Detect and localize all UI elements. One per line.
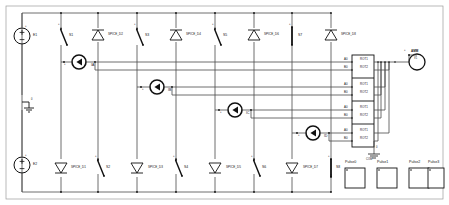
block-common-node-label: COM [366,159,372,162]
block-0-output-ROT1: ROT1 [360,58,368,61]
block-3-input-A0: A0 [344,129,348,132]
block-1-output-ROT2: ROT2 [360,91,368,94]
source-E1-minus: - [25,43,26,46]
switch-S7[interactable] [291,26,293,46]
meter-sublabel: V1 [414,58,417,61]
switch-S7-terminal: + [289,24,291,27]
diode-SPICE_D3[interactable] [131,163,143,173]
switch-S1-terminal: + [58,24,60,27]
pulse-boxes [345,168,444,188]
label-pulse-0: Pulse0 [345,161,356,165]
label-switch-S7: S7 [298,34,302,37]
label-diode-SPICE_D5: SPICE_D5 [226,166,241,169]
label-switch-S4: S4 [184,166,188,169]
source-E2-plus: + [25,155,27,158]
switch-S2-terminal: + [95,156,97,159]
source-E1[interactable] [14,13,30,95]
label-pulse-1: Pulse1 [377,161,388,165]
label-diode-SPICE_D4: SPICE_D4 [186,33,201,36]
switch-S3-terminal: + [134,24,136,27]
label-switch-S3: S3 [145,34,149,37]
label-switch-S5: S5 [223,34,227,37]
current-source-IC[interactable] [215,103,343,118]
block-3-input-B0: B0 [344,137,348,140]
switch-S6-terminal: + [251,156,253,159]
current-source-IC-terminal: + [220,112,222,115]
current-source-ID-terminal: + [298,135,300,138]
block-0-input-A0: A0 [344,58,348,61]
switch-S4-terminal: + [173,156,175,159]
current-source-IA[interactable] [61,55,343,70]
label-diode-SPICE_D6: SPICE_D6 [264,33,279,36]
diode-SPICE_D4[interactable] [170,30,182,40]
current-source-IA-terminal: + [64,64,66,67]
current-source-IB-terminal: + [142,89,144,92]
schematic-drawing [0,0,449,205]
block-2-input-A0: A0 [344,106,348,109]
meter-label: AMM [411,50,418,53]
block-1-input-B0: B0 [344,91,348,94]
diode-SPICE_D6[interactable] [248,30,260,40]
label-ground: 0 [31,99,33,102]
block-2-output-ROT1: ROT1 [360,106,368,109]
diode-SPICE_D5[interactable] [209,163,221,173]
block-1-input-A0: A0 [344,83,348,86]
block-0-output-ROT2: ROT2 [360,66,368,69]
label-switch-S8: S8 [336,166,340,169]
label-diode-SPICE_D7: SPICE_D7 [303,166,318,169]
label-switch-S1: S1 [69,34,73,37]
label-pulse-2: Pulse2 [409,161,420,165]
diode-SPICE_D8[interactable] [325,30,337,40]
meter-plus-terminal: + [404,50,406,53]
block-3-output-ROT2: ROT2 [360,137,368,140]
source-E2-minus: - [25,172,26,175]
label-diode-SPICE_D1: SPICE_D1 [71,166,86,169]
label-diode-SPICE_D8: SPICE_D8 [341,33,356,36]
label-switch-S6: S6 [262,166,266,169]
schematic-canvas: E1 + - E2 + - 0 S1 S3 S5 S7 + + + + SPIC… [0,0,449,205]
label-diode-SPICE_D3: SPICE_D3 [148,166,163,169]
label-current-source-ID: ID [324,135,328,138]
block-3-output-ROT1: ROT1 [360,129,368,132]
label-current-source-IB: IB [168,89,171,92]
switch-S1[interactable] [60,27,68,46]
source-E1-plus: + [25,26,27,29]
label-source-E1: E1 [33,34,37,37]
source-E2[interactable] [14,110,30,192]
block-2-input-B0: B0 [344,114,348,117]
label-switch-S2: S2 [106,166,110,169]
switch-S5-terminal: + [212,24,214,27]
label-diode-SPICE_D2: SPICE_D2 [108,33,123,36]
diode-SPICE_D7[interactable] [286,163,298,173]
ground-symbol [22,102,34,112]
diode-SPICE_D1[interactable] [55,163,67,173]
label-source-E2: E2 [33,163,37,166]
label-pulse-3: Pulse3 [428,161,439,165]
block-group [343,55,409,158]
label-current-source-IC: IC [246,112,250,115]
switch-S5[interactable] [214,27,222,46]
switch-S8[interactable] [330,158,332,178]
block-2-output-ROT2: ROT2 [360,114,368,117]
block-0-input-B0: B0 [344,66,348,69]
diode-SPICE_D2[interactable] [92,30,104,40]
block-common-terminal-label: 0 [376,147,378,150]
label-current-source-IA: IA [91,64,94,67]
switch-S3[interactable] [136,27,144,46]
block-1-output-ROT1: ROT1 [360,83,368,86]
switch-S8-terminal: + [328,156,330,159]
